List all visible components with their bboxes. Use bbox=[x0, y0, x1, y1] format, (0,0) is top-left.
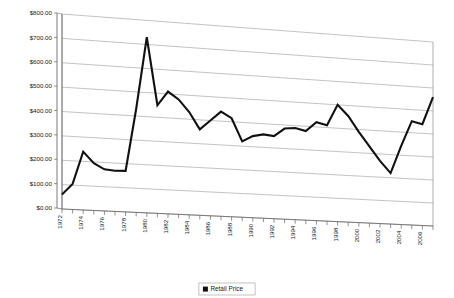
x-axis-tick-label: 1986 bbox=[204, 221, 211, 235]
x-axis-tick-label: 2002 bbox=[374, 229, 381, 243]
y-axis-tick-label: $0.00 bbox=[37, 204, 53, 211]
x-axis-tick-label: 1994 bbox=[289, 225, 296, 239]
legend-swatch bbox=[203, 287, 208, 292]
x-axis-tick-label: 1972 bbox=[56, 214, 63, 228]
chart-walls bbox=[57, 13, 433, 226]
floor-corner-line bbox=[57, 208, 62, 209]
x-axis-tick-label: 1996 bbox=[310, 226, 317, 240]
gridline bbox=[62, 185, 433, 203]
x-axis-tick-label: 1998 bbox=[332, 227, 339, 241]
y-axis-tick-label: $400.00 bbox=[30, 107, 53, 114]
gridline bbox=[62, 87, 433, 111]
x-axis-labels: 1972197419761978198019821984198619881990… bbox=[56, 214, 423, 245]
x-axis-tick-label: 1980 bbox=[141, 218, 148, 232]
x-axis-tick-label: 1992 bbox=[268, 224, 275, 238]
gridline bbox=[62, 38, 433, 65]
y-axis-labels: $0.00$100.00$200.00$300.00$400.00$500.00… bbox=[30, 9, 53, 211]
x-axis-line bbox=[62, 209, 433, 226]
y-axis-tick-label: $700.00 bbox=[30, 34, 53, 41]
x-axis-tick-label: 1978 bbox=[120, 217, 127, 231]
x-axis-tick-label: 2004 bbox=[395, 230, 402, 244]
y-axis-tick-label: $600.00 bbox=[30, 58, 53, 65]
x-axis-tick-label: 1982 bbox=[162, 219, 169, 233]
y-axis-ticks bbox=[54, 13, 57, 208]
gridline bbox=[62, 14, 433, 42]
gridline bbox=[62, 112, 433, 135]
chart-legend: Retail Price bbox=[199, 283, 255, 295]
y-axis-tick-label: $800.00 bbox=[30, 9, 53, 16]
y-axis-tick-label: $100.00 bbox=[30, 180, 53, 187]
x-axis-tick-label: 1990 bbox=[247, 223, 254, 237]
y-axis-wall bbox=[57, 13, 62, 209]
legend-label: Retail Price bbox=[210, 285, 243, 292]
x-axis-tick-label: 1974 bbox=[77, 215, 84, 229]
x-axis-tick-label: 2000 bbox=[353, 228, 360, 242]
x-axis-tick-label: 1976 bbox=[98, 216, 105, 230]
y-axis-tick-label: $500.00 bbox=[30, 82, 53, 89]
retail-price-line-chart: $0.00$100.00$200.00$300.00$400.00$500.00… bbox=[0, 0, 454, 298]
x-axis-tick-label: 1984 bbox=[183, 220, 190, 234]
chart-container: $0.00$100.00$200.00$300.00$400.00$500.00… bbox=[0, 0, 454, 298]
x-axis-tick-label: 1988 bbox=[226, 222, 233, 236]
gridlines bbox=[62, 14, 433, 226]
gridline bbox=[62, 63, 433, 88]
x-axis-tick-label: 2006 bbox=[416, 231, 423, 245]
y-axis-tick-label: $300.00 bbox=[30, 131, 53, 138]
y-axis-tick-label: $200.00 bbox=[30, 155, 53, 162]
